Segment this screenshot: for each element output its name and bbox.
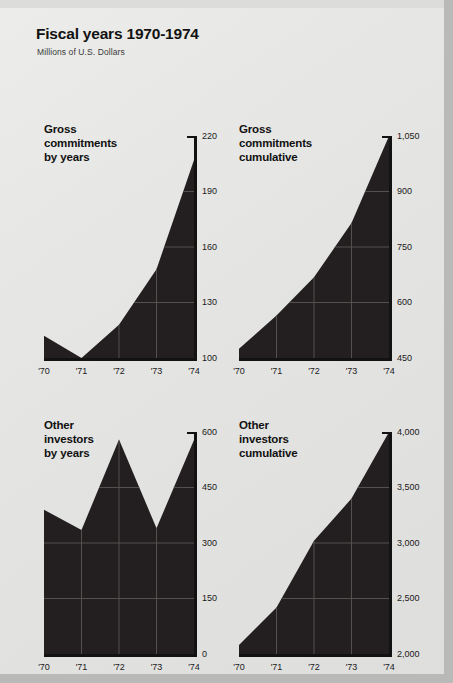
y-axis-label: 150 <box>202 594 217 603</box>
x-axis-line <box>44 358 197 361</box>
y-axis-label: 160 <box>202 243 217 252</box>
x-axis-label: '70 <box>32 663 56 672</box>
x-axis-label: '74 <box>182 663 206 672</box>
y-axis-label: 450 <box>202 483 217 492</box>
x-axis-label: '70 <box>32 367 56 376</box>
x-axis-line <box>239 358 392 361</box>
page-sheet: Fiscal years 1970-1974 Millions of U.S. … <box>0 0 444 674</box>
y-axis-line <box>194 136 197 358</box>
x-axis-label: '70 <box>227 367 251 376</box>
plot-area: 100130160190220'70'71'72'73'74 <box>44 136 194 358</box>
x-axis-label: '74 <box>377 663 401 672</box>
y-axis-label: 130 <box>202 298 217 307</box>
y-axis-label: 100 <box>202 354 217 363</box>
y-axis-label: 300 <box>202 539 217 548</box>
y-axis-line <box>194 432 197 654</box>
y-axis-label: 4,000 <box>397 428 420 437</box>
x-axis-label: '71 <box>265 663 289 672</box>
x-axis-label: '71 <box>70 663 94 672</box>
y-axis-line <box>389 432 392 654</box>
y-axis-line <box>389 136 392 358</box>
x-axis-label: '70 <box>227 663 251 672</box>
x-axis-label: '71 <box>70 367 94 376</box>
plot-area: 0150300450600'70'71'72'73'74 <box>44 432 194 654</box>
y-axis-tick <box>187 432 194 434</box>
y-axis-label: 900 <box>397 187 412 196</box>
x-axis-label: '72 <box>302 663 326 672</box>
y-axis-label: 450 <box>397 354 412 363</box>
area-series <box>239 432 389 654</box>
x-axis-label: '71 <box>265 367 289 376</box>
x-axis-label: '74 <box>182 367 206 376</box>
page-subtitle: Millions of U.S. Dollars <box>37 47 125 57</box>
y-axis-label: 0 <box>202 650 207 659</box>
x-axis-line <box>44 654 197 657</box>
plot-area: 4506007509001,050'70'71'72'73'74 <box>239 136 389 358</box>
area-series <box>44 432 194 654</box>
x-axis-label: '74 <box>377 367 401 376</box>
x-axis-label: '72 <box>302 367 326 376</box>
y-axis-tick <box>382 432 389 434</box>
y-axis-label: 190 <box>202 187 217 196</box>
y-axis-label: 600 <box>202 428 217 437</box>
page-top-band <box>0 0 444 8</box>
x-axis-label: '73 <box>340 367 364 376</box>
y-axis-label: 2,000 <box>397 650 420 659</box>
x-axis-label: '72 <box>107 663 131 672</box>
y-axis-tick <box>382 136 389 138</box>
page-title: Fiscal years 1970-1974 <box>36 25 199 43</box>
y-axis-label: 2,500 <box>397 594 420 603</box>
x-axis-label: '73 <box>145 367 169 376</box>
y-axis-label: 750 <box>397 243 412 252</box>
x-axis-line <box>239 654 392 657</box>
y-axis-label: 3,000 <box>397 539 420 548</box>
y-axis-label: 3,500 <box>397 483 420 492</box>
y-axis-label: 600 <box>397 298 412 307</box>
x-axis-label: '73 <box>145 663 169 672</box>
y-axis-label: 220 <box>202 132 217 141</box>
area-series <box>44 136 194 358</box>
x-axis-label: '72 <box>107 367 131 376</box>
y-axis-label: 1,050 <box>397 132 420 141</box>
y-axis-tick <box>187 136 194 138</box>
plot-area: 2,0002,5003,0003,5004,000'70'71'72'73'74 <box>239 432 389 654</box>
area-series <box>239 136 389 358</box>
x-axis-label: '73 <box>340 663 364 672</box>
